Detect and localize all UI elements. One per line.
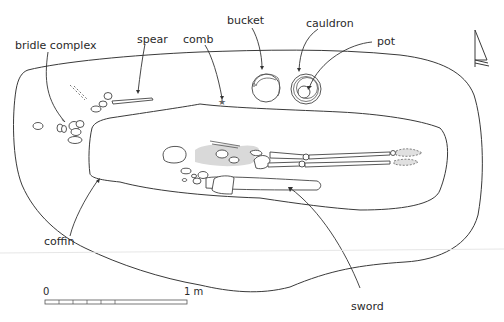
- label-bucket: bucket: [227, 15, 264, 26]
- grave-cut-outline: [14, 50, 483, 292]
- scale-start-label: 0: [43, 287, 49, 297]
- sword: [206, 176, 321, 194]
- north-arrow-icon: [475, 30, 489, 67]
- cauldron: [291, 74, 321, 104]
- scale-end-label: 1 m: [184, 287, 203, 297]
- scan-artifact-line: [0, 249, 504, 253]
- bridle-complex: [33, 121, 84, 144]
- label-bridle-complex: bridle complex: [15, 40, 96, 51]
- label-sword: sword: [351, 301, 384, 312]
- label-cauldron: cauldron: [306, 18, 354, 29]
- label-pot: pot: [377, 36, 395, 47]
- skeleton: [163, 141, 422, 184]
- label-spear: spear: [137, 34, 168, 45]
- label-comb: comb: [183, 34, 213, 45]
- spear: [70, 85, 153, 112]
- scale-bar: [45, 300, 187, 304]
- label-coffin: coffin: [44, 236, 74, 247]
- bucket: [252, 74, 280, 102]
- grave-plan-diagram: ★: [0, 0, 504, 322]
